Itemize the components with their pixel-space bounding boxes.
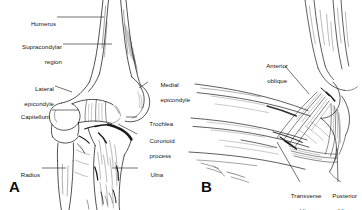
label-medial-epicondyle-line1: Medial	[160, 81, 178, 88]
label-coronoid-line1: Coronoid	[149, 137, 174, 144]
label-coronoid-process: Coronoid process	[139, 130, 183, 167]
panel-letter-b: B	[201, 178, 212, 195]
label-anterior-oblique: Anterior oblique	[247, 55, 297, 92]
label-posterior-oblique-line2: oblique	[335, 207, 355, 210]
panel-b: Anterior oblique Transverse oblique Post…	[181, 0, 362, 210]
label-humerus-line1: Humerus	[31, 20, 56, 27]
label-coronoid-line2: process	[149, 152, 171, 159]
panel-letter-a: A	[9, 178, 20, 195]
label-lateral-epicondyle-line1: Lateral	[35, 85, 54, 92]
label-capitellum: Capitellum	[2, 106, 50, 128]
label-supracondylar-line2: region	[45, 58, 62, 65]
label-ulna: Ulna	[140, 164, 178, 186]
panel-a: Humerus Supracondylar region Lateral epi…	[0, 0, 181, 210]
label-radius: Radius	[2, 164, 40, 186]
label-anterior-oblique-line2: oblique	[267, 77, 287, 84]
label-transverse-oblique-line2: oblique	[296, 207, 316, 210]
anatomy-figure: Humerus Supracondylar region Lateral epi…	[0, 0, 362, 210]
label-humerus: Humerus	[8, 13, 56, 35]
label-radius-line1: Radius	[21, 171, 40, 178]
label-trochlea-line1: Trochlea	[149, 120, 173, 127]
label-supracondylar-region: Supracondylar region	[2, 36, 62, 73]
label-anterior-oblique-line1: Anterior	[266, 62, 288, 69]
label-posterior-oblique-line1: Posterior	[332, 192, 357, 199]
label-supracondylar-line1: Supracondylar	[22, 43, 62, 50]
label-capitellum-line1: Capitellum	[21, 113, 50, 120]
label-ulna-line1: Ulna	[150, 171, 163, 178]
label-posterior-oblique: Posterior oblique	[317, 185, 362, 210]
